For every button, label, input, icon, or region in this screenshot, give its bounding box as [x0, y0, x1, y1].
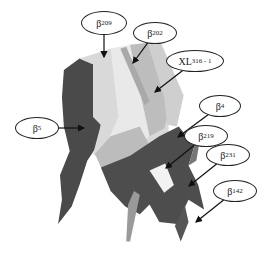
label-subscript: 202: [152, 29, 163, 37]
callout-arrow: [196, 200, 224, 222]
label-b209: β209: [81, 11, 127, 35]
label-subscript: 209: [101, 19, 112, 27]
label-b231: β231: [206, 144, 250, 166]
label-base: XL: [178, 56, 191, 67]
label-b202: β202: [133, 22, 177, 44]
label-subscript: 231: [225, 151, 236, 159]
callout-arrow: [189, 164, 217, 186]
callout-arrow: [133, 42, 148, 63]
label-subscript: 4: [221, 102, 225, 110]
label-subscript: 142: [232, 187, 243, 195]
label-subscript: 5: [38, 124, 42, 132]
label-b142: β142: [213, 180, 257, 202]
label-b4: β4: [199, 95, 241, 117]
label-xl316: XL316 - 1: [166, 50, 224, 72]
structure-diagram: β209β202XL316 - 1β4β5β219β231β142: [0, 0, 268, 261]
callout-arrow: [155, 70, 183, 92]
label-subscript: 219: [203, 132, 214, 140]
label-subscript: 316 - 1: [192, 57, 212, 65]
label-b5: β5: [15, 117, 59, 139]
callout-arrow: [166, 145, 195, 168]
